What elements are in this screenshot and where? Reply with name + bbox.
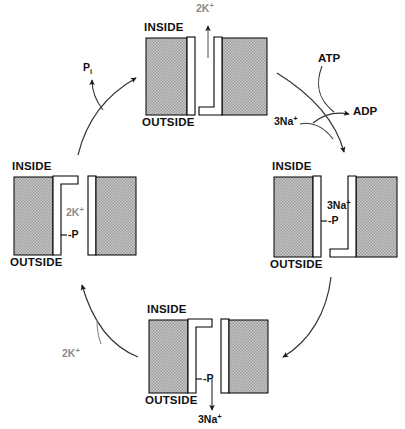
panel-bottom-membrane-left xyxy=(149,320,188,393)
pi-release-subscript: i xyxy=(90,67,92,76)
panel-left-ion-charge: + xyxy=(79,205,83,214)
cycle-arc-right-to-bottom xyxy=(283,277,331,357)
panel-right-inside-label: INSIDE xyxy=(272,161,312,173)
panel-left-membrane-right xyxy=(96,177,136,255)
panel-right-gate-left xyxy=(313,176,321,257)
panel-right-ion-label: 3Na+ xyxy=(327,200,351,211)
na-efflux-count: 3Na xyxy=(198,413,217,425)
pi-release-symbol: P xyxy=(83,61,90,73)
cycle-arc-left-to-top xyxy=(78,78,136,155)
panel-left-inside-label: INSIDE xyxy=(12,161,52,173)
k-input-charge: + xyxy=(75,346,79,355)
panel-right-ion-charge: + xyxy=(346,198,350,207)
panel-top-gate-right xyxy=(199,37,222,115)
panel-right-outside-label: OUTSIDE xyxy=(270,259,323,271)
panel-right-phosphate-label: -P xyxy=(328,215,339,226)
na-input-charge: + xyxy=(293,114,297,123)
panel-left-phosphate-label: -P xyxy=(68,229,79,240)
diagram-canvas xyxy=(0,0,405,429)
panel-top-inside-label: INSIDE xyxy=(144,22,184,34)
panel-top-outside-label: OUTSIDE xyxy=(142,117,195,129)
panel-top-membrane-left xyxy=(146,38,187,115)
panel-top-membrane-right xyxy=(222,38,267,115)
panel-left-ion-count: 2K xyxy=(66,206,79,218)
panel-top xyxy=(146,26,267,115)
panel-top-gate-left xyxy=(187,37,195,115)
panel-left-ion-label: 2K+ xyxy=(66,207,84,218)
k-input-count: 2K xyxy=(62,347,75,359)
panel-left-membrane-left xyxy=(14,177,53,255)
panel-bottom-na-efflux-label: 3Na+ xyxy=(198,414,222,425)
panel-right-ion-count: 3Na xyxy=(327,199,346,211)
cycle-arc-bottom-to-left xyxy=(82,285,138,357)
k-input-label: 2K+ xyxy=(62,348,80,359)
panel-bottom-outside-label: OUTSIDE xyxy=(145,395,198,407)
na-efflux-charge: + xyxy=(217,412,221,421)
adp-output-arc xyxy=(313,113,349,123)
pi-release-arc xyxy=(92,80,103,110)
na-input-arc xyxy=(300,123,333,139)
panel-bottom-membrane-right xyxy=(229,320,268,393)
pump-cycle-diagram: INSIDE OUTSIDE 2K+ INSIDE OUTSIDE 3Na+ -… xyxy=(0,0,405,429)
panel-left-outside-label: OUTSIDE xyxy=(10,257,63,269)
k-efflux-count: 2K xyxy=(196,2,209,14)
pi-release-label: Pi xyxy=(83,62,92,73)
panel-left-gate-right xyxy=(88,176,96,255)
k-efflux-charge: + xyxy=(209,1,213,10)
panel-right-membrane-right xyxy=(356,177,397,257)
panel-top-k-efflux-label: 2K+ xyxy=(196,3,214,14)
panel-bottom-inside-label: INSIDE xyxy=(147,304,187,316)
adp-label: ADP xyxy=(353,106,377,118)
atp-label: ATP xyxy=(318,53,340,65)
na-input-count: 3Na xyxy=(274,115,293,127)
atp-input-arc xyxy=(318,66,334,112)
panel-bottom-gate-right xyxy=(221,319,229,393)
cycle-arc-top-to-right xyxy=(277,73,344,152)
na-input-label: 3Na+ xyxy=(274,116,298,127)
panel-right-membrane-left xyxy=(274,177,313,257)
panel-bottom-phosphate-label: -P xyxy=(203,373,214,384)
